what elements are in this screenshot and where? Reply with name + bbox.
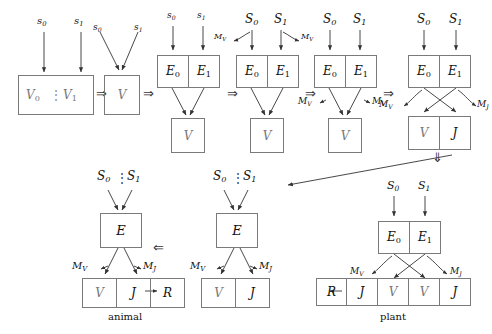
animal-cell-v: V <box>82 278 117 308</box>
plant-cell-v-right: V <box>408 278 440 306</box>
stage4-box-v: V <box>250 118 284 153</box>
implies-arrow-3: ⇒ <box>227 86 238 101</box>
stage6-cell-e1: E1 <box>439 55 471 88</box>
stage3-cell-e1: E1 <box>188 55 220 88</box>
plant-input-S1: S1 <box>418 180 430 193</box>
stage3-input-s0: s0 <box>167 11 176 21</box>
stage1-label-v0: V0 <box>26 89 40 102</box>
stage2-input-s0: s0 <box>93 23 102 33</box>
animal-label-mv: MV <box>72 261 87 273</box>
stage4-input-S1: S1 <box>274 13 287 26</box>
plant-cell-r: R <box>316 278 347 306</box>
plant-cell-v-left: V <box>377 278 409 306</box>
stage1-label-v1: V1 <box>63 89 77 102</box>
diagram-canvas: s0 s1 V0 ⋮ V1 ⇒ s0 s1 V ⇒ s0 s1 E0 E1 V … <box>0 0 492 334</box>
stage6-cell-v: V <box>408 116 440 150</box>
middle-box-e: E <box>216 213 258 248</box>
stage1-input-s1: s1 <box>74 16 83 28</box>
stage6-input-S1: S1 <box>449 13 462 26</box>
stage3-cell-e0: E0 <box>157 55 189 88</box>
stage5-input-S1: S1 <box>353 13 366 26</box>
animal-cell-j: J <box>116 278 151 308</box>
middle-label-mj: MJ <box>259 261 272 273</box>
stage1-vdots: ⋮ <box>50 88 62 102</box>
stage4-cell-e1: E1 <box>267 55 299 88</box>
caption-plant: plant <box>380 311 406 322</box>
stage3-input-s1: s1 <box>197 11 206 21</box>
plant-cell-j-right: J <box>439 278 471 306</box>
stage4-input-S0: S0 <box>245 13 258 26</box>
plant-label-mv: MV <box>350 267 364 277</box>
middle-cell-j: J <box>235 278 270 308</box>
stage6-cell-e0: E0 <box>408 55 440 88</box>
plant-cell-j-left: J <box>346 278 378 306</box>
stage2-input-s1: s1 <box>134 23 143 33</box>
animal-input-S0: S0 <box>97 170 110 183</box>
animal-cell-r: R <box>150 278 185 308</box>
stage4-cell-e0: E0 <box>236 55 268 88</box>
implies-arrow-down: ⇓ <box>432 150 443 165</box>
plant-label-mj: MJ <box>450 267 462 277</box>
middle-label-mv: MV <box>190 261 205 273</box>
stage6-label-mv: MV <box>379 100 393 110</box>
stage1-input-s0: s0 <box>37 16 46 28</box>
caption-animal: animal <box>108 311 142 322</box>
plant-cell-e1: E1 <box>409 221 441 254</box>
animal-box-e: E <box>100 213 142 248</box>
stage2-box-v: V <box>104 75 140 115</box>
stage4-label-mv-left: MV <box>214 33 226 42</box>
implies-arrow-2: ⇒ <box>143 86 154 101</box>
plant-cell-e0: E0 <box>378 221 410 254</box>
plant-input-S0: S0 <box>387 180 399 193</box>
stage5-cell-e1: E1 <box>345 55 377 88</box>
stage5-box-v: V <box>328 118 362 153</box>
animal-input-S1: S1 <box>127 170 140 183</box>
animal-label-mj: MJ <box>143 261 156 273</box>
stage4-label-mv-right: MV <box>301 33 313 42</box>
middle-input-S1: S1 <box>243 170 256 183</box>
middle-input-S0: S0 <box>213 170 226 183</box>
stage6-label-mj: MJ <box>477 100 489 110</box>
stage6-cell-j: J <box>439 116 471 150</box>
stage3-box-v: V <box>171 118 205 153</box>
stage5-label-mv-left: MV <box>298 97 312 107</box>
implies-arrow-left: ⇐ <box>153 240 164 255</box>
stage5-cell-e0: E0 <box>314 55 346 88</box>
stage6-input-S0: S0 <box>417 13 430 26</box>
middle-cell-v: V <box>201 278 236 308</box>
stage5-input-S0: S0 <box>323 13 336 26</box>
